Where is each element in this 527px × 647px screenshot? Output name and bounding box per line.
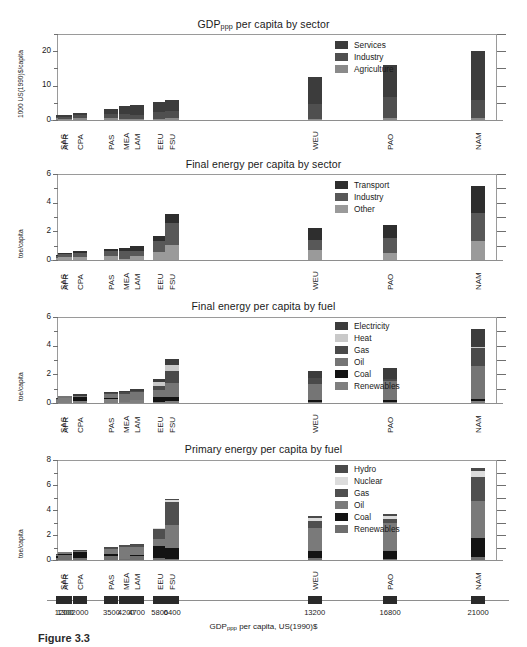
bar-segment-renewables <box>308 558 322 561</box>
chart-panel-primary-energy-by-fuel: Primary energy per capita by fuel02468to… <box>0 0 527 647</box>
legend-item-renewables: Renewables <box>335 524 465 533</box>
legend-swatch-gas <box>335 489 348 497</box>
y-tick-minor <box>54 498 58 499</box>
x-category-label-WEU: WEU <box>311 571 320 590</box>
bar-segment-oil <box>130 547 144 556</box>
y-tick-label: 8 <box>29 455 51 464</box>
y-tick-minor <box>54 473 58 474</box>
x-category-label-EEU: EEU <box>156 574 165 590</box>
gdp-tick-label: 21000 <box>458 608 498 617</box>
gdp-tick-label: 13200 <box>295 608 335 617</box>
x-category-label-PAS: PAS <box>107 575 116 590</box>
gdp-axis-title: GDPppp per capita, US(1990)$ <box>0 622 527 631</box>
x-axis-line-primary-energy-by-fuel <box>51 560 503 561</box>
legend-swatch-hydro <box>335 465 348 473</box>
gdp-tick-mark <box>165 596 179 604</box>
bar-primary-energy-by-fuel-NAM <box>471 468 485 561</box>
bar-segment-coal <box>383 551 397 558</box>
bar-segment-coal <box>165 548 179 559</box>
y-tick-right <box>497 460 506 461</box>
legend-item-hydro: Hydro <box>335 464 465 473</box>
chart-title-primary-energy-by-fuel: Primary energy per capita by fuel <box>0 443 527 455</box>
bar-segment-renewables <box>383 559 397 561</box>
x-category-label-LAM: LAM <box>133 574 142 590</box>
gdp-tick-mark <box>383 596 397 604</box>
figure-caption: Figure 3.3 <box>38 632 90 644</box>
bar-segment-renewables <box>104 556 118 560</box>
legend-primary-energy-by-fuel: HydroNuclearGasOilCoalRenewables <box>335 464 465 536</box>
legend-item-nuclear: Nuclear <box>335 476 465 485</box>
legend-item-coal: Coal <box>335 512 465 521</box>
gdp-axis: 1200130020003500420047005800640013200168… <box>47 594 509 610</box>
x-category-label-PAO: PAO <box>386 574 395 590</box>
bar-segment-renewables <box>73 558 87 561</box>
y-tick-right <box>497 510 506 511</box>
bar-primary-energy-by-fuel-CPA <box>73 550 87 560</box>
gdp-tick-label: 16800 <box>370 608 410 617</box>
y-tick-label: 0 <box>29 555 51 564</box>
y-tick-minor-right <box>497 498 506 499</box>
x-category-label-CPA: CPA <box>76 574 85 590</box>
bar-primary-energy-by-fuel-PAS <box>104 547 118 560</box>
bar-segment-oil <box>308 528 322 551</box>
x-category-label-AFR: AFR <box>61 574 70 590</box>
legend-label: Renewables <box>354 524 400 534</box>
y-tick-major <box>53 560 58 561</box>
y-tick-label: 6 <box>29 480 51 489</box>
gdp-tick-mark <box>471 596 485 604</box>
legend-label: Nuclear <box>354 476 383 486</box>
legend-label: Coal <box>354 512 371 522</box>
bar-segment-renewables <box>130 556 144 560</box>
y-tick-right <box>497 485 506 486</box>
y-tick-minor-right <box>497 473 506 474</box>
bar-segment-renewables <box>165 559 179 561</box>
legend-label: Oil <box>354 500 364 510</box>
figure-root: GDPppp per capita by sector010201000 US(… <box>0 0 527 647</box>
gdp-tick-mark <box>73 596 87 604</box>
y-axis-label-primary-energy-by-fuel: toe/capita <box>17 529 24 558</box>
y-tick-minor-right <box>497 523 506 524</box>
bar-segment-renewables <box>471 557 485 560</box>
y-tick-label: 4 <box>29 505 51 514</box>
y-tick-right <box>497 535 506 536</box>
bar-segment-renewables <box>58 555 72 560</box>
x-category-label-MEA: MEA <box>122 573 131 590</box>
y-tick-major <box>53 510 58 511</box>
y-tick-minor-right <box>497 548 506 549</box>
bar-segment-coal <box>471 538 485 557</box>
bar-segment-gas <box>165 502 179 525</box>
y-tick-major <box>53 535 58 536</box>
bar-segment-oil <box>471 501 485 538</box>
x-category-label-FSU: FSU <box>168 574 177 590</box>
bar-primary-energy-by-fuel-WEU <box>308 516 322 560</box>
gdp-tick-mark <box>58 596 72 604</box>
bar-primary-energy-by-fuel-FSU <box>165 499 179 560</box>
legend-label: Hydro <box>354 464 376 474</box>
bar-primary-energy-by-fuel-AFR <box>58 552 72 560</box>
y-tick-label: 2 <box>29 530 51 539</box>
y-tick-major <box>53 460 58 461</box>
legend-swatch-nuclear <box>335 477 348 485</box>
gdp-tick-mark <box>308 596 322 604</box>
y-tick-minor <box>54 523 58 524</box>
y-tick-minor <box>54 548 58 549</box>
bar-primary-energy-by-fuel-LAM <box>130 544 144 561</box>
legend-swatch-oil <box>335 501 348 509</box>
legend-item-oil: Oil <box>335 500 465 509</box>
gdp-tick-mark <box>130 596 144 604</box>
bar-segment-oil <box>165 525 179 548</box>
gdp-tick-mark <box>104 596 118 604</box>
legend-item-gas: Gas <box>335 488 465 497</box>
legend-swatch-renewables <box>335 525 348 533</box>
x-category-label-NAM: NAM <box>474 572 483 590</box>
bar-segment-gas <box>471 477 485 501</box>
legend-label: Gas <box>354 488 369 498</box>
y-tick-major <box>53 485 58 486</box>
bar-segment-gas <box>308 521 322 528</box>
gdp-tick-label: 6400 <box>152 608 192 617</box>
legend-swatch-coal <box>335 513 348 521</box>
